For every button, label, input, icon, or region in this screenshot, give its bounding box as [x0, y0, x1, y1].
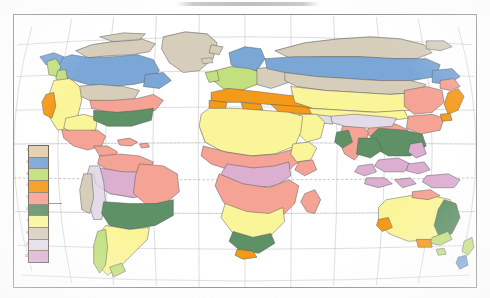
world-map-graphic	[14, 15, 476, 287]
region-iceland	[201, 58, 213, 64]
legend-swatch-9	[29, 240, 48, 252]
map-plate	[14, 15, 476, 287]
legend-tick-mark	[49, 203, 62, 204]
legend-swatch-4	[29, 181, 48, 193]
legend-swatch-2	[29, 158, 48, 170]
legend-swatch-5	[29, 193, 48, 205]
region-oceania	[355, 142, 474, 269]
region-south-america	[80, 154, 180, 277]
screenshot-root: 1 2 3 4 5 6 7 8 9 10	[0, 0, 490, 298]
legend-swatch-1	[29, 146, 48, 158]
legend-swatch-3	[29, 169, 48, 181]
top-gray-band	[176, 2, 320, 6]
legend-swatch-10	[29, 251, 48, 262]
legend-swatch-8	[29, 228, 48, 240]
legend-swatch-7	[29, 216, 48, 228]
world-map-frame	[13, 14, 477, 288]
climate-class-legend	[28, 145, 49, 263]
legend-swatch-6	[29, 205, 48, 217]
region-greenland	[161, 32, 223, 73]
